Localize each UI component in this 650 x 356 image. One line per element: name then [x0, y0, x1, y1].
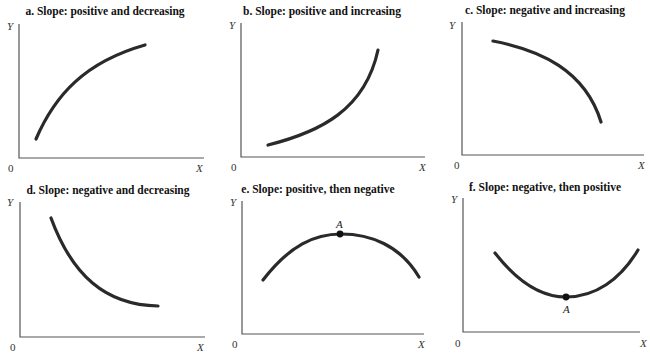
panel-b: b. Slope: positive and increasing Y 0 X [229, 5, 427, 173]
panel-c-x-label: X [637, 159, 646, 171]
panel-c-curve [493, 41, 601, 122]
panel-c: c. Slope: negative and increasing Y 0 X [449, 4, 646, 171]
panel-c-title: c. Slope: negative and increasing [465, 4, 625, 17]
panel-e-title: e. Slope: positive, then negative [241, 183, 394, 196]
panel-a-axes [19, 24, 204, 158]
panel-a-curve [36, 45, 145, 139]
panel-d-origin: 0 [10, 341, 16, 353]
panel-e: e. Slope: positive, then negative Y 0 X … [230, 183, 426, 350]
panel-a-y-label: Y [7, 20, 15, 32]
panel-a-x-label: X [195, 162, 204, 174]
panel-d: d. Slope: negative and decreasing Y 0 X [7, 184, 205, 353]
panel-e-curve [263, 234, 419, 280]
panel-d-y-label: Y [7, 196, 15, 208]
panel-b-title: b. Slope: positive and increasing [243, 5, 401, 18]
panel-d-axes [20, 202, 205, 337]
panel-b-x-label: X [418, 161, 427, 173]
panel-b-axes [241, 23, 425, 157]
panel-e-axes [242, 201, 424, 334]
panel-f-point-label: A [562, 303, 570, 315]
panel-e-y-label: Y [230, 196, 238, 208]
panel-c-axes [462, 22, 644, 155]
panel-f-point-a [563, 294, 570, 301]
panel-a-origin: 0 [8, 162, 14, 174]
panel-b-curve [268, 50, 378, 145]
panel-a-title: a. Slope: positive and decreasing [25, 5, 184, 18]
panel-f-origin: 0 [455, 337, 461, 349]
panel-e-point-label: A [335, 218, 343, 230]
panel-e-x-label: X [417, 338, 426, 350]
panel-a: a. Slope: positive and decreasing Y 0 X [7, 5, 204, 174]
slope-figure: a. Slope: positive and decreasing Y 0 X … [0, 0, 650, 356]
panel-d-curve [51, 218, 158, 306]
panel-b-y-label: Y [229, 19, 237, 31]
panel-f-x-label: X [639, 337, 648, 349]
panel-f-y-label: Y [451, 193, 459, 205]
panel-e-origin: 0 [232, 338, 238, 350]
panel-d-x-label: X [196, 341, 205, 353]
panel-f-axes [463, 198, 640, 332]
panel-c-y-label: Y [449, 19, 457, 31]
panel-f-title: f. Slope: negative, then positive [469, 181, 621, 194]
panel-d-title: d. Slope: negative and decreasing [26, 184, 189, 197]
panel-c-origin: 0 [454, 159, 460, 171]
panel-f: f. Slope: negative, then positive Y 0 X … [451, 181, 648, 349]
panel-f-curve [495, 250, 638, 297]
panel-b-origin: 0 [231, 161, 237, 173]
panel-e-point-a [337, 231, 344, 238]
